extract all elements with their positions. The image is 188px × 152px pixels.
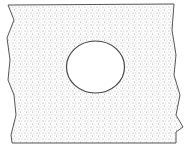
plate-with-hole-diagram: [0, 0, 188, 152]
circular-hole: [67, 41, 125, 93]
